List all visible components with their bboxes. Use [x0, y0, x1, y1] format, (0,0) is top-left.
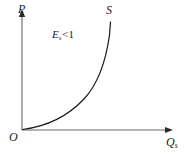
- x-axis-label: Qs: [166, 136, 178, 148]
- elasticity-value: 1: [69, 28, 75, 40]
- supply-curve-label: S: [106, 4, 112, 16]
- elasticity-relation-sign: <: [61, 28, 68, 40]
- elasticity-annotation: Es<1: [52, 29, 74, 40]
- x-axis-label-subscript: s: [175, 141, 178, 150]
- elasticity-symbol: E: [52, 28, 59, 40]
- y-axis-group: [19, 9, 25, 130]
- chart-canvas: [0, 0, 190, 157]
- y-axis-label: P: [18, 3, 25, 15]
- supply-curve-figure: P S Qs O Es<1: [0, 0, 190, 157]
- x-axis-arrowhead-icon: [165, 127, 173, 133]
- x-axis-label-main: Q: [166, 135, 175, 149]
- origin-label: O: [9, 131, 18, 143]
- x-axis-group: [22, 127, 173, 133]
- elasticity-subscript: s: [59, 34, 62, 41]
